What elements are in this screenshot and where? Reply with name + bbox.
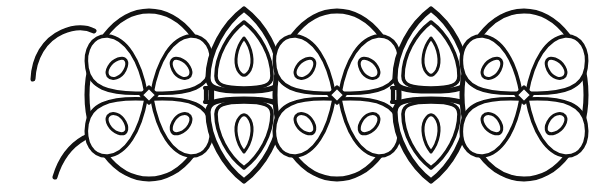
algal-filament-drawing	[0, 0, 614, 184]
cell-round-3	[274, 11, 399, 179]
cell-round-1	[86, 11, 211, 179]
figure-canvas: Filamentous green alga line drawing Hand…	[0, 0, 614, 184]
cell-round-5	[461, 11, 586, 179]
